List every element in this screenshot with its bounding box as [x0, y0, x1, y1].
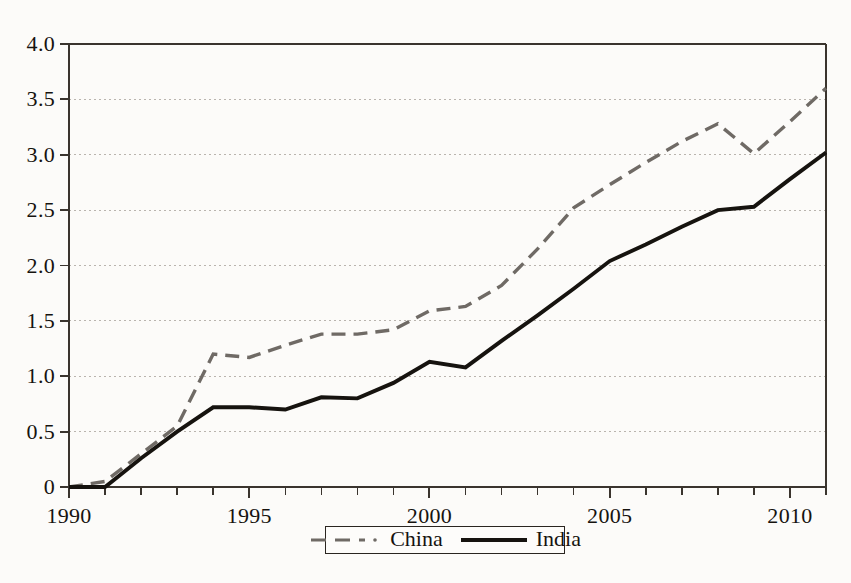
- y-tick-label: 4.0: [0, 31, 55, 57]
- y-tick-label: 3.5: [0, 86, 55, 112]
- legend-swatch-solid-icon: [459, 533, 529, 547]
- x-tick-label: 1995: [227, 503, 272, 529]
- line-chart-plot: [0, 0, 851, 583]
- legend-entry-india: India: [451, 528, 589, 552]
- chart-legend: China India: [325, 526, 565, 554]
- y-tick-label: 0: [0, 474, 55, 500]
- x-tick-label: 2010: [767, 503, 812, 529]
- x-tick-label: 2005: [587, 503, 632, 529]
- series-line-india: [69, 153, 826, 487]
- legend-label-china: China: [390, 528, 443, 552]
- data-series: [69, 88, 826, 487]
- y-tick-label: 2.5: [0, 197, 55, 223]
- y-tick-label: 2.0: [0, 253, 55, 279]
- chart-axes: [69, 44, 826, 487]
- y-tick-label: 1.0: [0, 363, 55, 389]
- y-tick-label: 3.0: [0, 142, 55, 168]
- legend-label-india: India: [536, 528, 581, 552]
- y-tick-label: 1.5: [0, 308, 55, 334]
- gridlines: [69, 44, 826, 432]
- chart-figure: 00.51.01.52.02.53.03.54.0 19901995200020…: [0, 0, 851, 583]
- legend-swatch-dashed-icon: [309, 533, 383, 547]
- legend-entry-china: China: [301, 528, 451, 552]
- y-tick-label: 0.5: [0, 419, 55, 445]
- x-tick-label: 1990: [46, 503, 91, 529]
